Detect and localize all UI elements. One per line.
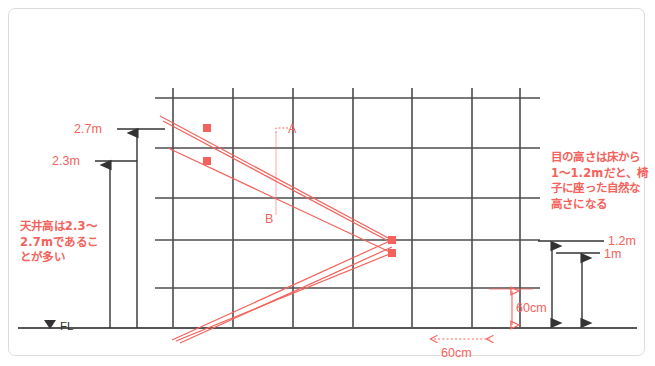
note-eye-height: 目の高さは床から 1〜1.2mだと、椅 子に座った自然な 高さになる	[551, 150, 648, 212]
note-eye-height-line-1: 目の高さは床から	[551, 150, 648, 166]
label-ceiling-high: 2.7m	[74, 121, 102, 138]
label-60cm-horizontal: 60cm	[441, 345, 472, 362]
label-ceiling-low: 2.3m	[52, 153, 80, 170]
persp-desc-upper-b	[163, 121, 392, 243]
note-eye-height-line-4: 高さになる	[551, 197, 648, 213]
label-floor-level: FL	[60, 319, 73, 335]
label-point-a: A	[288, 121, 296, 138]
note-ceiling-height-line-1: 天井高は2.3〜	[20, 219, 98, 235]
perspective-grid	[155, 88, 540, 328]
persp-asc-1	[172, 240, 392, 340]
ceiling-tick-lines	[95, 129, 165, 161]
label-eye-low: 1m	[604, 246, 621, 263]
vanishing-point-marker-a	[388, 236, 396, 244]
label-60cm-vertical: 60cm	[516, 300, 547, 317]
label-point-b: B	[265, 211, 273, 228]
note-eye-height-line-2: 1〜1.2mだと、椅	[551, 166, 648, 182]
note-eye-height-line-3: 子に座った自然な	[551, 181, 648, 197]
note-ceiling-height: 天井高は2.3〜 2.7mであるこ とが多い	[20, 219, 98, 266]
diagram-canvas: 2.7m 2.3m FL 1.2m 1m 60cm 60cm A B 天井高は2…	[0, 0, 655, 366]
persp-desc-lower	[168, 148, 392, 253]
point-marker-b	[203, 157, 211, 165]
point-marker-a	[203, 124, 211, 132]
eye-height-dimension-arrows	[552, 246, 582, 323]
vanishing-point-marker-b	[388, 249, 396, 257]
leader-a	[276, 128, 288, 133]
note-ceiling-height-line-3: とが多い	[20, 250, 98, 266]
ceiling-dimension-arrows	[110, 133, 137, 328]
note-ceiling-height-line-2: 2.7mであるこ	[20, 235, 98, 251]
eye-height-tick-lines	[538, 241, 604, 253]
